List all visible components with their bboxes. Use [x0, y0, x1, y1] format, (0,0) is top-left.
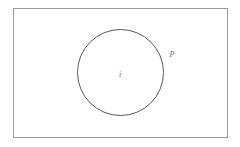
diagram-canvas: i P — [0, 0, 240, 147]
outer-region-label: P — [169, 50, 175, 59]
inner-region-label: i — [119, 70, 121, 79]
set-diagram-figure: i P — [0, 0, 240, 147]
